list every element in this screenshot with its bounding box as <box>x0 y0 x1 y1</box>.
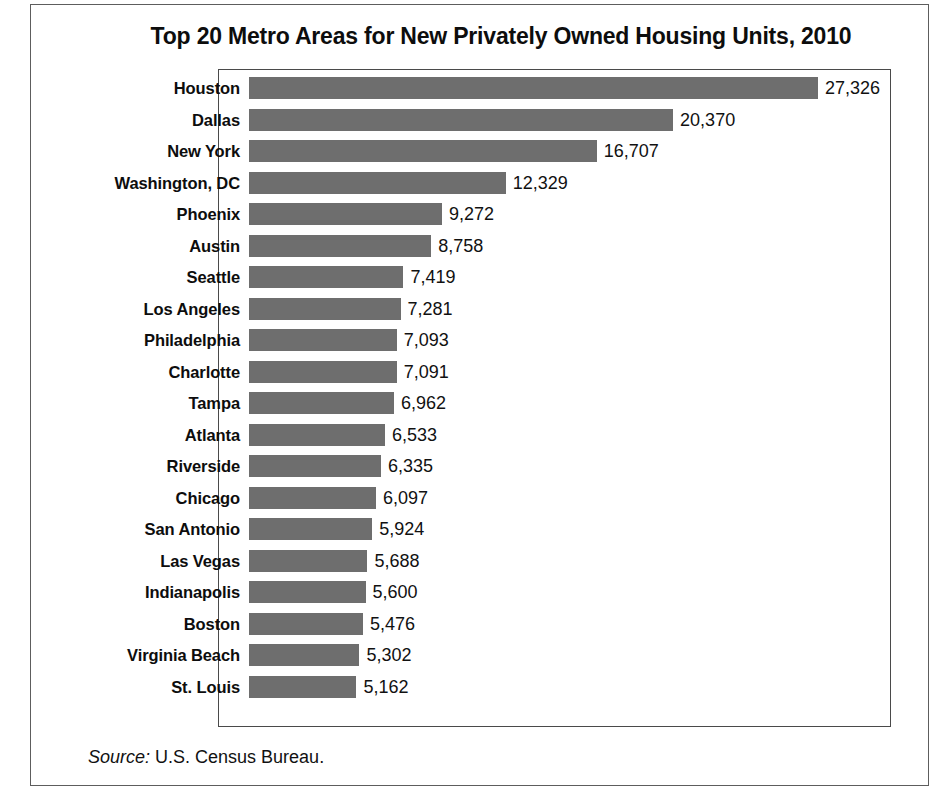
bar-row: Chicago6,097 <box>31 486 941 518</box>
bar-value-label: 8,758 <box>438 234 483 258</box>
bar-value-label: 7,091 <box>404 360 449 384</box>
bar-category-label: Boston <box>31 612 240 636</box>
bar-category-label: Indianapolis <box>31 580 240 604</box>
bar <box>249 235 431 257</box>
bar <box>249 392 394 414</box>
bar-row: Seattle7,419 <box>31 265 941 297</box>
bar <box>249 361 397 383</box>
bar-value-label: 9,272 <box>449 202 494 226</box>
bar-row: Tampa6,962 <box>31 391 941 423</box>
page-frame: Top 20 Metro Areas for New Privately Own… <box>30 4 929 786</box>
bar-row: Indianapolis5,600 <box>31 580 941 612</box>
bar-category-label: San Antonio <box>31 517 240 541</box>
bar-row: New York16,707 <box>31 139 941 171</box>
bar <box>249 140 597 162</box>
bar-value-label: 7,419 <box>410 265 455 289</box>
bar-value-label: 5,600 <box>373 580 418 604</box>
bar-value-label: 7,281 <box>408 297 453 321</box>
bar-value-label: 5,476 <box>370 612 415 636</box>
source-text: U.S. Census Bureau. <box>150 747 324 767</box>
bar-category-label: Washington, DC <box>31 171 240 195</box>
bar <box>249 424 385 446</box>
bar <box>249 613 363 635</box>
bar <box>249 77 818 99</box>
bar <box>249 203 442 225</box>
bar <box>249 298 401 320</box>
bar-rows-container: Houston27,326Dallas20,370New York16,707W… <box>31 69 941 727</box>
bar <box>249 581 366 603</box>
bar <box>249 109 673 131</box>
bar <box>249 644 359 666</box>
bar-value-label: 20,370 <box>680 108 735 132</box>
bar-category-label: New York <box>31 139 240 163</box>
bar-category-label: Tampa <box>31 391 240 415</box>
chart-title: Top 20 Metro Areas for New Privately Own… <box>86 23 916 50</box>
bar-value-label: 6,335 <box>388 454 433 478</box>
bar-row: Los Angeles7,281 <box>31 297 941 329</box>
bar-category-label: Dallas <box>31 108 240 132</box>
bar-row: Las Vegas5,688 <box>31 549 941 581</box>
bar-category-label: Seattle <box>31 265 240 289</box>
bar-value-label: 7,093 <box>404 328 449 352</box>
bar-value-label: 27,326 <box>825 76 880 100</box>
bar-category-label: Philadelphia <box>31 328 240 352</box>
source-note: Source: U.S. Census Bureau. <box>88 747 324 768</box>
bar-category-label: Phoenix <box>31 202 240 226</box>
bar-category-label: Charlotte <box>31 360 240 384</box>
bar-category-label: Virginia Beach <box>31 643 240 667</box>
bar-category-label: Riverside <box>31 454 240 478</box>
bar-value-label: 5,688 <box>374 549 419 573</box>
bar-row: Atlanta6,533 <box>31 423 941 455</box>
bar <box>249 518 372 540</box>
bar-value-label: 6,097 <box>383 486 428 510</box>
source-label: Source: <box>88 747 150 767</box>
bar <box>249 266 403 288</box>
bar-row: Dallas20,370 <box>31 108 941 140</box>
bar-row: Charlotte7,091 <box>31 360 941 392</box>
bar-row: San Antonio5,924 <box>31 517 941 549</box>
bar-value-label: 5,162 <box>363 675 408 699</box>
bar-value-label: 12,329 <box>513 171 568 195</box>
bar <box>249 550 367 572</box>
bar-category-label: Las Vegas <box>31 549 240 573</box>
bar-row: St. Louis5,162 <box>31 675 941 707</box>
bar-category-label: Austin <box>31 234 240 258</box>
bar <box>249 329 397 351</box>
bar-category-label: St. Louis <box>31 675 240 699</box>
bar-category-label: Chicago <box>31 486 240 510</box>
bar <box>249 676 356 698</box>
bar-row: Phoenix9,272 <box>31 202 941 234</box>
bar <box>249 487 376 509</box>
bar-row: Houston27,326 <box>31 76 941 108</box>
bar-category-label: Los Angeles <box>31 297 240 321</box>
bar-value-label: 16,707 <box>604 139 659 163</box>
bar-row: Washington, DC12,329 <box>31 171 941 203</box>
bar-row: Austin8,758 <box>31 234 941 266</box>
bar-value-label: 6,962 <box>401 391 446 415</box>
bar-category-label: Houston <box>31 76 240 100</box>
bar-row: Virginia Beach5,302 <box>31 643 941 675</box>
bar-value-label: 5,924 <box>379 517 424 541</box>
bar-row: Boston5,476 <box>31 612 941 644</box>
bar <box>249 455 381 477</box>
bar-value-label: 5,302 <box>366 643 411 667</box>
bar <box>249 172 506 194</box>
bar-value-label: 6,533 <box>392 423 437 447</box>
bar-row: Riverside6,335 <box>31 454 941 486</box>
bar-category-label: Atlanta <box>31 423 240 447</box>
bar-row: Philadelphia7,093 <box>31 328 941 360</box>
